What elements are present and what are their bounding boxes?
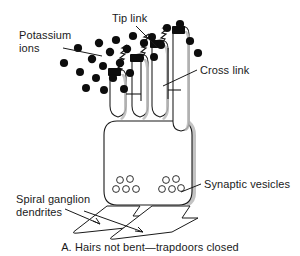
vesicle [127, 176, 134, 183]
vesicle [117, 177, 124, 184]
potassium-ion-dot [76, 68, 84, 76]
stereocilium-3 [152, 40, 168, 117]
potassium-ion-dot [109, 74, 117, 82]
label-synaptic-vesicles: Synaptic vesicles [204, 178, 290, 190]
label-potassium-ions-line1: Potassium [19, 29, 71, 41]
vesicle [123, 186, 130, 193]
label-tip-link: Tip link [112, 12, 148, 24]
potassium-ion-dot [60, 59, 68, 67]
potassium-ion-dot [82, 84, 90, 92]
vesicle [133, 186, 140, 193]
potassium-ion-dot [186, 37, 194, 45]
potassium-ion-dot [136, 54, 144, 62]
potassium-ion-dot [123, 45, 131, 53]
potassium-ion-dot [126, 69, 134, 77]
vesicle [178, 185, 185, 192]
label-cross-link: Cross link [200, 64, 250, 76]
label-potassium-ions-line2: ions [19, 42, 40, 54]
potassium-ion-dot [163, 24, 171, 32]
potassium-ion-dot [112, 36, 120, 44]
potassium-ion-dot [95, 39, 103, 47]
potassium-ion-dot [194, 49, 202, 57]
potassium-ion-dot [106, 48, 114, 56]
potassium-ion-dot [120, 85, 128, 93]
potassium-ion-dot [140, 39, 148, 47]
label-spiral-ganglion-line2: dendrites [16, 206, 63, 218]
potassium-ion-dot [99, 62, 107, 70]
potassium-ion-dot [157, 41, 165, 49]
potassium-ion-dot [116, 59, 124, 67]
vesicle [173, 176, 180, 183]
vesicle [159, 186, 166, 193]
hair-cell-diagram: Potassium ions Tip link Cross link Synap… [0, 0, 300, 256]
hair-cell-body-group [104, 121, 196, 206]
potassium-ion-dot [92, 74, 100, 82]
leader-potassium [63, 48, 102, 56]
figure-root: Potassium ions Tip link Cross link Synap… [0, 0, 300, 256]
potassium-ion-dot [150, 53, 158, 61]
dendrites-group [73, 206, 198, 239]
label-spiral-ganglion-line1: Spiral ganglion [16, 193, 90, 205]
vesicle [169, 186, 176, 193]
vesicle [163, 177, 170, 184]
figure-caption: A. Hairs not bent—trapdoors closed [61, 241, 239, 253]
potassium-ion-dot [88, 55, 96, 63]
potassium-ion-dot [100, 86, 108, 94]
vesicle [113, 186, 120, 193]
potassium-ion-dot [176, 20, 184, 28]
potassium-ion-dot [129, 32, 137, 40]
